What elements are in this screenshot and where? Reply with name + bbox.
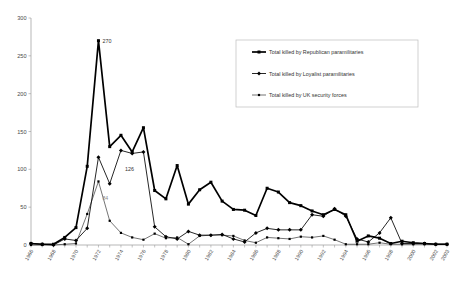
data-point <box>199 235 201 237</box>
x-tick-label: 1970 <box>68 248 79 261</box>
y-tick-label: 300 <box>17 15 26 21</box>
data-point <box>435 243 437 245</box>
y-tick-label: 200 <box>17 91 26 97</box>
y-tick-label: 150 <box>17 129 26 135</box>
data-point <box>75 242 77 244</box>
legend-label: Total killed by Republican paramilitarie… <box>269 49 364 55</box>
y-tick-label: 100 <box>17 166 26 172</box>
data-point <box>141 150 145 154</box>
data-point <box>254 214 257 217</box>
data-point <box>258 94 260 96</box>
data-point <box>176 236 178 238</box>
data-point <box>97 39 100 42</box>
data-point <box>86 213 88 215</box>
data-point <box>300 236 302 238</box>
x-axis: 1966196819701972197419761978198019821984… <box>23 245 450 261</box>
data-point <box>356 243 358 245</box>
data-point <box>176 164 179 167</box>
data-point <box>153 189 156 192</box>
x-tick-label: 1974 <box>113 248 124 261</box>
data-point <box>232 208 235 211</box>
x-tick-label: 1990 <box>293 248 304 261</box>
data-point <box>41 244 43 246</box>
x-tick-label: 2003 <box>439 248 450 261</box>
data-point <box>367 243 369 245</box>
series-2 <box>29 148 449 247</box>
data-point <box>277 237 279 239</box>
data-label-84: 84 <box>102 195 108 201</box>
y-tick-label: 50 <box>20 204 26 210</box>
legend-item-1[interactable]: Total killed by Republican paramilitarie… <box>252 49 364 55</box>
data-point <box>288 201 291 204</box>
y-tick-label: 0 <box>23 242 26 248</box>
data-point <box>266 187 269 190</box>
data-point <box>288 238 290 240</box>
data-point <box>154 233 156 235</box>
data-point <box>378 237 381 240</box>
data-point <box>187 203 190 206</box>
data-point <box>412 243 414 245</box>
data-point <box>244 239 246 241</box>
data-point <box>198 188 201 191</box>
data-point <box>288 228 292 232</box>
data-point <box>231 237 235 241</box>
data-point <box>265 226 269 230</box>
data-point <box>120 232 122 234</box>
data-label-126: 126 <box>125 166 134 172</box>
x-tick-label: 1968 <box>46 248 57 261</box>
data-point <box>333 239 335 241</box>
data-point <box>322 235 324 237</box>
data-point <box>64 243 66 245</box>
data-point <box>378 242 380 244</box>
x-tick-label: 1984 <box>226 248 237 261</box>
data-point <box>446 243 448 245</box>
data-point <box>311 236 313 238</box>
data-point <box>30 244 32 246</box>
data-point <box>232 235 234 237</box>
data-point <box>131 236 133 238</box>
data-point <box>119 148 123 152</box>
data-point <box>401 243 403 245</box>
data-point <box>108 182 112 186</box>
data-point <box>109 220 111 222</box>
legend-label: Total killed by UK security forces <box>269 92 347 98</box>
data-point <box>86 165 89 168</box>
x-tick-label: 2002 <box>428 248 439 261</box>
data-point <box>311 209 314 212</box>
data-point <box>258 51 261 54</box>
x-tick-label: 1996 <box>361 248 372 261</box>
x-tick-label: 1994 <box>338 248 349 261</box>
y-axis: 050100150200250300 <box>17 15 31 248</box>
data-point <box>165 237 167 239</box>
data-point <box>209 181 212 184</box>
x-tick-label: 1976 <box>136 248 147 261</box>
line-chart: 050100150200250300 196619681970197219741… <box>0 0 454 281</box>
data-point <box>423 243 425 245</box>
data-point <box>52 244 54 246</box>
data-point <box>210 234 212 236</box>
data-point <box>221 234 223 236</box>
y-tick-label: 250 <box>17 53 26 59</box>
chart-legend: Total killed by Republican paramilitarie… <box>236 40 418 107</box>
data-point <box>108 145 111 148</box>
series-line <box>31 150 447 245</box>
x-tick-label: 2000 <box>406 248 417 261</box>
data-point <box>142 239 144 241</box>
x-tick-label: 1992 <box>316 248 327 261</box>
x-tick-label: 1986 <box>248 248 259 261</box>
data-point <box>142 126 145 129</box>
data-point <box>266 236 268 238</box>
data-label-270: 270 <box>102 38 111 44</box>
series-3 <box>30 180 448 246</box>
data-point <box>119 134 122 137</box>
data-point <box>299 204 302 207</box>
x-tick-label: 1988 <box>271 248 282 261</box>
data-point <box>97 180 99 182</box>
data-point <box>74 226 77 229</box>
x-tick-label: 1978 <box>158 248 169 261</box>
x-tick-label: 1966 <box>23 248 34 261</box>
data-point <box>277 191 280 194</box>
data-point <box>187 243 189 245</box>
data-point <box>96 155 100 159</box>
data-point <box>164 197 167 200</box>
